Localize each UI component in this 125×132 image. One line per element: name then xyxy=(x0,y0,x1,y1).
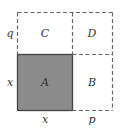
side-label-p: p xyxy=(88,113,95,126)
region-b-label: B xyxy=(87,76,96,89)
region-d-label: D xyxy=(87,27,97,40)
side-label-x-left: x xyxy=(7,76,14,89)
side-label-x-bottom: x xyxy=(42,113,49,126)
square-diagram: C D A B q x x p xyxy=(0,0,125,132)
region-c-label: C xyxy=(41,27,50,40)
side-label-q: q xyxy=(6,27,13,40)
region-a-label: A xyxy=(40,76,49,89)
